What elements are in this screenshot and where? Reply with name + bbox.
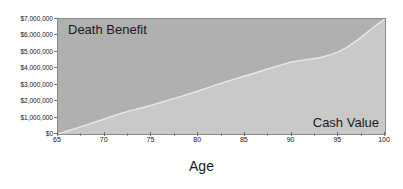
x-axis-minor-tick-mark <box>221 133 222 136</box>
y-axis-tick-label: $6,000,000 <box>0 31 53 38</box>
x-axis-tick-label: 90 <box>287 136 295 143</box>
y-axis-tick-label: $1,000,000 <box>0 113 53 120</box>
x-axis-tick-mark <box>384 132 385 136</box>
y-axis-tick-label: $2,000,000 <box>0 97 53 104</box>
chart-figure: $0$1,000,000$2,000,000$3,000,000$4,000,0… <box>0 0 403 189</box>
x-axis-tick-mark <box>197 132 198 136</box>
x-axis-tick-label: 85 <box>240 136 248 143</box>
x-axis-title: Age <box>0 158 403 174</box>
x-axis-tick-label: 70 <box>100 136 108 143</box>
y-axis-tick-label: $7,000,000 <box>0 15 53 22</box>
x-axis-tick-label: 80 <box>193 136 201 143</box>
y-axis-tick-label: $5,000,000 <box>0 47 53 54</box>
plot-area: Death Benefit Cash Value <box>57 18 386 135</box>
x-axis-tick-label: 75 <box>147 136 155 143</box>
x-axis: 65707580859095100 <box>57 136 384 150</box>
x-axis-minor-tick-mark <box>314 133 315 136</box>
x-axis-minor-tick-mark <box>174 133 175 136</box>
x-axis-minor-tick-mark <box>267 133 268 136</box>
x-axis-tick-mark <box>104 132 105 136</box>
x-axis-tick-mark <box>57 132 58 136</box>
series-label-cash-value: Cash Value <box>313 115 379 130</box>
x-axis-tick-mark <box>291 132 292 136</box>
x-axis-tick-label: 100 <box>378 136 390 143</box>
x-axis-minor-tick-mark <box>80 133 81 136</box>
x-axis-tick-label: 65 <box>53 136 61 143</box>
x-axis-minor-tick-mark <box>127 133 128 136</box>
x-axis-tick-mark <box>337 132 338 136</box>
y-axis-tick-label: $0 <box>0 130 53 137</box>
x-axis-tick-mark <box>150 132 151 136</box>
series-label-death-benefit: Death Benefit <box>68 22 147 37</box>
y-axis-tick-label: $3,000,000 <box>0 80 53 87</box>
y-axis: $0$1,000,000$2,000,000$3,000,000$4,000,0… <box>0 18 53 133</box>
x-axis-tick-mark <box>244 132 245 136</box>
x-axis-minor-tick-mark <box>361 133 362 136</box>
y-axis-tick-label: $4,000,000 <box>0 64 53 71</box>
x-axis-tick-label: 95 <box>333 136 341 143</box>
